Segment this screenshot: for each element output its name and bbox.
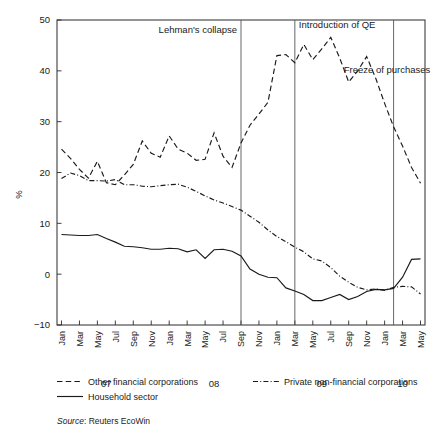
- y-tick-label: 0: [45, 269, 50, 280]
- x-tick-label: May: [308, 331, 318, 349]
- chart-annotation: Freeze of purchases: [344, 64, 431, 75]
- x-tick-label: Nov: [254, 331, 264, 348]
- legend-label: Other financial corporations: [88, 377, 199, 387]
- x-tick-label: Sep: [236, 331, 246, 347]
- x-tick-label: Jan: [272, 331, 282, 346]
- x-tick-label: Nov: [147, 331, 157, 348]
- x-tick-label: Jan: [165, 331, 175, 346]
- source-note: Source: Reuters EcoWin: [57, 416, 150, 426]
- x-tick-label: Nov: [362, 331, 372, 348]
- chart-annotation: Introduction of QE: [299, 19, 376, 30]
- x-tick-label: May: [200, 331, 210, 349]
- y-tick-label: 20: [39, 167, 50, 178]
- x-tick-label: Mar: [183, 331, 193, 347]
- line-chart: −1001020304050%JanMarMayJulSepNovJanMarM…: [0, 0, 438, 435]
- x-tick-label: May: [416, 331, 426, 349]
- y-tick-label: 40: [39, 65, 50, 76]
- x-tick-label: Mar: [75, 331, 85, 347]
- x-year-label: 08: [209, 378, 220, 389]
- x-tick-label: Mar: [398, 331, 408, 347]
- x-tick-label: Mar: [290, 331, 300, 347]
- y-tick-label: 30: [39, 116, 50, 127]
- y-axis-label: %: [13, 190, 24, 199]
- x-tick-label: Jan: [57, 331, 67, 346]
- chart-figure: −1001020304050%JanMarMayJulSepNovJanMarM…: [0, 0, 438, 435]
- x-tick-label: Sep: [129, 331, 139, 347]
- x-tick-label: Jan: [380, 331, 390, 346]
- x-tick-label: Sep: [344, 331, 354, 347]
- x-tick-label: May: [93, 331, 103, 349]
- chart-annotation: Lehman's collapse: [159, 24, 237, 35]
- x-tick-label: Jul: [218, 331, 228, 343]
- legend-label: Private non-financial corporations: [284, 377, 418, 387]
- y-tick-label: −10: [34, 319, 50, 330]
- x-tick-label: Jul: [326, 331, 336, 343]
- legend-label: Household sector: [88, 392, 158, 402]
- x-tick-label: Jul: [111, 331, 121, 343]
- y-tick-label: 50: [39, 14, 50, 25]
- y-tick-label: 10: [39, 218, 50, 229]
